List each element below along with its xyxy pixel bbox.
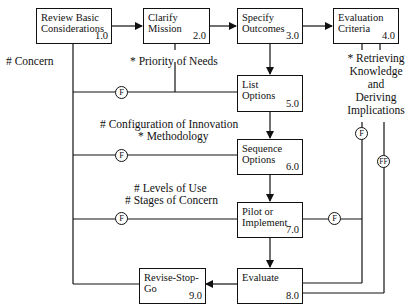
feedback-marker: F (115, 86, 128, 99)
node-evaluation-criteria: Evaluation Criteria 4.0 (333, 8, 399, 44)
node-label: Clarify Mission (148, 12, 182, 34)
node-label: Pilot or Implement (242, 206, 288, 228)
node-label: Specify Outcomes (242, 12, 285, 34)
connector-lines (0, 0, 408, 306)
node-revise-stop-go: Revise-Stop-Go 9.0 (139, 268, 206, 304)
node-review-basic-considerations: Review Basic Considerations 1.0 (36, 8, 112, 44)
node-number: 4.0 (382, 30, 395, 41)
node-clarify-mission: Clarify Mission 2.0 (143, 8, 210, 44)
node-label: Evaluate (242, 272, 279, 283)
annotation-line: and (343, 78, 408, 91)
annotation-line: Implications (343, 104, 408, 117)
node-number: 2.0 (193, 30, 206, 41)
node-number: 1.0 (95, 30, 108, 41)
annotation-line: Deriving (343, 91, 408, 104)
node-label: Evaluation Criteria (338, 12, 384, 34)
feedback-marker: F (115, 149, 128, 162)
node-number: 3.0 (286, 30, 299, 41)
double-feedback-marker: FF (377, 155, 390, 168)
annotation-priority-of-needs: * Priority of Needs (130, 55, 218, 68)
node-number: 5.0 (286, 98, 299, 109)
node-number: 7.0 (286, 224, 299, 235)
annotation-line: Knowledge (343, 65, 408, 78)
feedback-marker: F (115, 212, 128, 225)
annotation-concern: # Concern (6, 55, 54, 68)
node-label: List Options (242, 79, 275, 101)
node-number: 9.0 (189, 290, 202, 301)
node-number: 6.0 (286, 161, 299, 172)
node-evaluate: Evaluate 8.0 (237, 268, 303, 304)
node-specify-outcomes: Specify Outcomes 3.0 (237, 8, 303, 44)
node-sequence-options: Sequence Options 6.0 (237, 139, 303, 175)
node-number: 8.0 (286, 290, 299, 301)
annotation-retrieving: * Retrieving Knowledge and Deriving Impl… (343, 52, 408, 117)
node-pilot-or-implement: Pilot or Implement 7.0 (237, 202, 303, 238)
node-list-options: List Options 5.0 (237, 75, 303, 112)
annotation-methodology: * Methodology (138, 130, 209, 143)
annotation-line: * Retrieving (343, 52, 408, 65)
node-label: Sequence Options (242, 143, 282, 165)
feedback-marker: F (328, 212, 341, 225)
feedback-marker: F (355, 127, 368, 140)
annotation-stages-of-concern: # Stages of Concern (125, 194, 218, 207)
